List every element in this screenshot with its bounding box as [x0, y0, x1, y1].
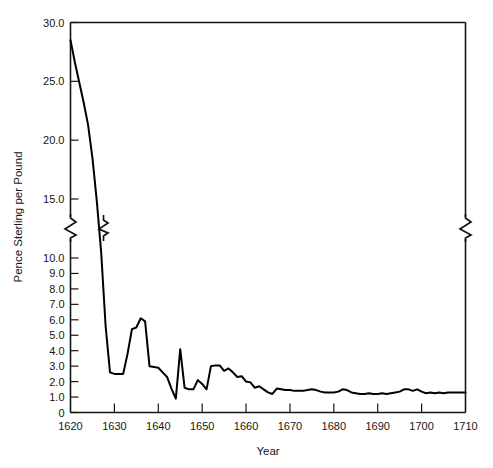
y-tick-label: 20.0 — [43, 134, 64, 146]
x-tick-label: 1620 — [58, 420, 82, 432]
y-tick-label: 9.0 — [49, 267, 64, 279]
y-axis-title: Pence Sterling per Pound — [12, 151, 24, 282]
y-tick-label: 5.0 — [49, 329, 64, 341]
y-tick-label: 6.0 — [49, 314, 64, 326]
y-tick-label: 15.0 — [43, 193, 64, 205]
x-tick-label: 1700 — [409, 420, 433, 432]
y-tick-label: 8.0 — [49, 283, 64, 295]
chart-canvas: 01.02.03.04.05.06.07.08.09.010.015.020.0… — [0, 0, 493, 468]
x-tick-label: 1630 — [102, 420, 126, 432]
x-tick-label: 1670 — [278, 420, 302, 432]
x-axis-title: Year — [256, 445, 279, 457]
y-tick-label: 4.0 — [49, 345, 64, 357]
x-tick-label: 1680 — [322, 420, 346, 432]
x-tick-label: 1640 — [146, 420, 170, 432]
y-tick-label: 30.0 — [43, 17, 64, 29]
x-tick-label: 1660 — [234, 420, 258, 432]
x-tick-label: 1690 — [365, 420, 389, 432]
x-tick-label: 1650 — [190, 420, 214, 432]
y-tick-label: 2.0 — [49, 376, 64, 388]
y-tick-label: 0 — [58, 407, 64, 419]
y-tick-label: 10.0 — [43, 252, 64, 264]
y-tick-label: 3.0 — [49, 360, 64, 372]
y-tick-label: 25.0 — [43, 75, 64, 87]
chart-figure: 01.02.03.04.05.06.07.08.09.010.015.020.0… — [0, 0, 493, 468]
y-tick-label: 1.0 — [49, 391, 64, 403]
x-tick-label: 1710 — [453, 420, 477, 432]
y-tick-label: 7.0 — [49, 298, 64, 310]
